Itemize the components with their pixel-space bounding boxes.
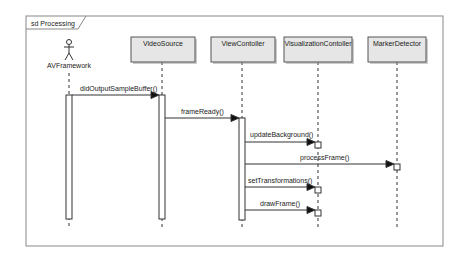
lifeline-label: VideoSource	[143, 40, 183, 47]
lifeline-label: MarkerDetector	[373, 40, 422, 47]
message-label-updatebackground: updateBackground()	[250, 131, 313, 139]
message-label-processframe: processFrame()	[300, 154, 349, 162]
activation-viewcontroller	[239, 118, 245, 220]
actor-label: AVFramework	[47, 62, 91, 69]
lifeline-label: ViewContoller	[221, 40, 265, 47]
frame-label: sd Processing	[31, 20, 75, 28]
message-label-didoutputsamplebuffer: didOutputSampleBuffer()	[80, 85, 157, 93]
lifeline-head-visualizationcontroller[interactable]: VisualizationContoller	[284, 37, 354, 64]
lifeline-label: VisualizationContoller	[284, 40, 352, 47]
lifeline-head-videosource[interactable]: VideoSource	[131, 37, 197, 64]
message-label-drawframe: drawFrame()	[260, 200, 300, 208]
lifeline-head-markerdetector[interactable]: MarkerDetector	[368, 37, 428, 64]
lifeline-head-viewcontroller[interactable]: ViewContoller	[211, 37, 277, 64]
messages	[72, 92, 394, 214]
message-label-frameready: frameReady()	[181, 108, 224, 116]
sequence-diagram: sd Processing AVFramework VideoSource Vi…	[0, 0, 465, 263]
activation-avframework	[66, 95, 72, 219]
actor-icon	[64, 40, 74, 61]
activation-videosource	[159, 95, 165, 219]
message-label-settransformations: setTransformations()	[248, 177, 312, 185]
